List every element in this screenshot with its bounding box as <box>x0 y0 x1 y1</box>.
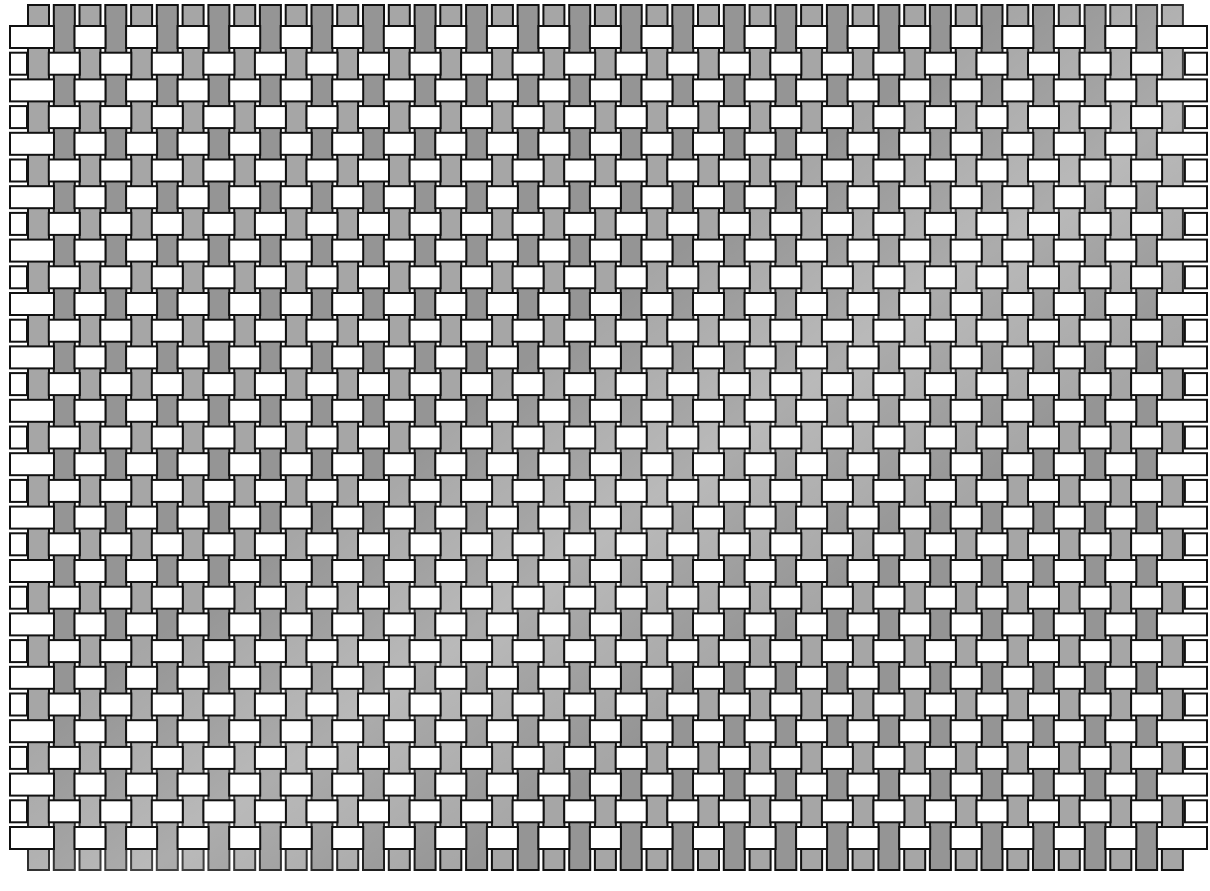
horizontal-strip-over <box>642 26 673 48</box>
horizontal-strip-over <box>745 827 776 849</box>
horizontal-strip-over <box>899 26 930 48</box>
horizontal-strip-over <box>410 640 441 662</box>
horizontal-strip-over <box>229 507 260 529</box>
horizontal-strip-over <box>461 373 492 395</box>
horizontal-strip-over <box>822 53 853 75</box>
horizontal-strip-over <box>1054 827 1085 849</box>
horizontal-strip-over <box>75 240 106 262</box>
horizontal-strip-over <box>1105 240 1136 262</box>
horizontal-strip-over <box>538 79 569 101</box>
horizontal-strip-over <box>178 507 209 529</box>
horizontal-strip-over <box>307 480 338 502</box>
horizontal-strip-over <box>10 560 54 582</box>
horizontal-strip-over <box>1105 186 1136 208</box>
horizontal-strip-over <box>770 427 801 449</box>
horizontal-strip-over <box>1080 266 1111 288</box>
horizontal-strip-over <box>100 320 131 342</box>
horizontal-strip-over <box>1080 694 1111 716</box>
horizontal-strip-over <box>899 186 930 208</box>
horizontal-strip-over <box>642 79 673 101</box>
horizontal-strip-over <box>1157 827 1207 849</box>
horizontal-strip-over <box>332 240 363 262</box>
horizontal-strip-over <box>667 320 698 342</box>
horizontal-strip-over <box>10 827 54 849</box>
horizontal-strip-over <box>873 213 904 235</box>
horizontal-strip-over <box>461 640 492 662</box>
horizontal-strip-over <box>307 427 338 449</box>
horizontal-strip-over <box>229 79 260 101</box>
horizontal-strip-over <box>332 400 363 422</box>
horizontal-strip-over <box>848 774 879 796</box>
horizontal-strip-over <box>255 533 286 555</box>
horizontal-strip-over <box>564 320 595 342</box>
horizontal-strip-over <box>642 186 673 208</box>
horizontal-strip-over <box>461 587 492 609</box>
horizontal-strip-over <box>745 346 776 368</box>
horizontal-strip-over <box>384 774 415 796</box>
horizontal-strip-over <box>49 53 80 75</box>
horizontal-strip-over <box>925 106 956 128</box>
horizontal-strip-over <box>719 587 750 609</box>
horizontal-strip-over <box>435 186 466 208</box>
horizontal-strip-over <box>100 160 131 182</box>
horizontal-strip-over <box>590 186 621 208</box>
horizontal-strip-over <box>848 827 879 849</box>
horizontal-strip-over <box>126 346 157 368</box>
horizontal-strip-over <box>616 106 647 128</box>
horizontal-strip-end <box>1185 266 1207 288</box>
horizontal-strip-over <box>435 507 466 529</box>
horizontal-strip-over <box>435 400 466 422</box>
horizontal-strip-over <box>796 400 827 422</box>
horizontal-strip-over <box>796 720 827 742</box>
horizontal-strip-over <box>667 587 698 609</box>
horizontal-strip-over <box>745 507 776 529</box>
horizontal-strip-over <box>925 373 956 395</box>
horizontal-strip-over <box>1002 240 1033 262</box>
horizontal-strip-over <box>229 26 260 48</box>
horizontal-strip-over <box>538 186 569 208</box>
horizontal-strip-over <box>616 266 647 288</box>
horizontal-strip-over <box>873 800 904 822</box>
horizontal-strip-over <box>1105 453 1136 475</box>
horizontal-strip-over <box>410 213 441 235</box>
horizontal-strip-over <box>203 694 234 716</box>
horizontal-strip-over <box>616 694 647 716</box>
horizontal-strip-over <box>873 587 904 609</box>
horizontal-strip-over <box>796 827 827 849</box>
horizontal-strip-over <box>1054 774 1085 796</box>
horizontal-strip-over <box>229 400 260 422</box>
horizontal-strip-over <box>822 373 853 395</box>
horizontal-strip-over <box>1131 480 1162 502</box>
horizontal-strip-over <box>1054 667 1085 689</box>
horizontal-strip-over <box>435 560 466 582</box>
horizontal-strip-over <box>693 507 724 529</box>
horizontal-strip-over <box>1157 667 1207 689</box>
horizontal-strip-over <box>693 613 724 635</box>
horizontal-strip-over <box>977 53 1008 75</box>
horizontal-strip-end <box>10 800 27 822</box>
horizontal-strip-over <box>770 587 801 609</box>
horizontal-strip-over <box>719 160 750 182</box>
horizontal-strip-over <box>435 667 466 689</box>
horizontal-strip-over <box>255 106 286 128</box>
horizontal-strip-over <box>796 560 827 582</box>
horizontal-strip-over <box>229 293 260 315</box>
horizontal-strip-over <box>899 667 930 689</box>
horizontal-strip-over <box>332 827 363 849</box>
horizontal-strip-over <box>951 667 982 689</box>
horizontal-strip-over <box>281 453 312 475</box>
horizontal-strip-over <box>152 640 183 662</box>
horizontal-strip-over <box>848 400 879 422</box>
horizontal-strip-end <box>10 427 27 449</box>
horizontal-strip-over <box>487 613 518 635</box>
horizontal-strip-over <box>564 373 595 395</box>
horizontal-strip-end <box>10 694 27 716</box>
horizontal-strip-over <box>538 133 569 155</box>
horizontal-strip-over <box>1157 560 1207 582</box>
horizontal-strip-over <box>1131 373 1162 395</box>
horizontal-strip-over <box>1080 320 1111 342</box>
horizontal-strip-over <box>487 453 518 475</box>
horizontal-strip-over <box>10 774 54 796</box>
horizontal-strip-over <box>281 774 312 796</box>
horizontal-strip-over <box>307 160 338 182</box>
